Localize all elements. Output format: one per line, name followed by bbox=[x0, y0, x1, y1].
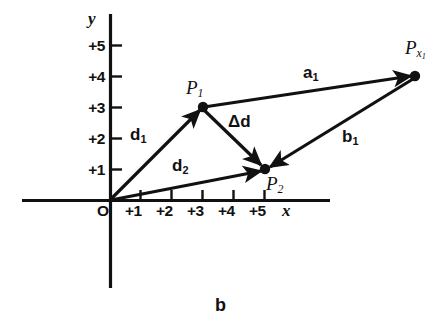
point-marker-p1 bbox=[198, 102, 208, 112]
y-tick-label-2: +2 bbox=[57, 131, 105, 147]
vector-label-d2-base: d bbox=[172, 156, 182, 175]
vector-label-a1: a1 bbox=[303, 64, 319, 83]
vector-label-b1: b1 bbox=[342, 128, 358, 147]
vector-label-d2-sub: 2 bbox=[182, 164, 188, 176]
vector-label-d1-sub: 1 bbox=[140, 133, 146, 145]
y-tick-label-1: +1 bbox=[57, 162, 105, 178]
vector-label-d1-base: d bbox=[130, 125, 140, 144]
axis-lines bbox=[22, 14, 330, 288]
point-label-p2: P2 bbox=[266, 174, 284, 196]
x-tick-label-3: +3 bbox=[187, 203, 204, 219]
point-label-p1: P1 bbox=[186, 78, 204, 100]
y-tick-label-5: +5 bbox=[57, 38, 105, 54]
figure-caption: b bbox=[215, 295, 226, 316]
vector-label-b1-sub: 1 bbox=[352, 135, 358, 147]
point-label-px1-sub2: 1 bbox=[422, 52, 426, 61]
vector-arrows bbox=[111, 76, 413, 200]
y-tick-label-3: +3 bbox=[57, 100, 105, 116]
vector-label-b1-base: b bbox=[342, 127, 352, 146]
x-axis-label: x bbox=[282, 202, 291, 219]
point-label-px1-sub: x1 bbox=[417, 47, 426, 60]
vector-b1-arrow bbox=[270, 79, 413, 167]
y-axis-label: y bbox=[88, 10, 96, 27]
vector-label-a1-sub: 1 bbox=[312, 71, 318, 83]
x-tick-label-4: +4 bbox=[218, 203, 235, 219]
x-tick-label-2: +2 bbox=[156, 203, 173, 219]
point-label-p2-sub: 2 bbox=[278, 183, 284, 196]
x-tick-label-1: +1 bbox=[125, 203, 142, 219]
point-label-p1-sub: 1 bbox=[198, 87, 204, 100]
point-marker-px1 bbox=[410, 71, 420, 81]
y-tick-label-4: +4 bbox=[57, 69, 105, 85]
point-label-p1-base: P bbox=[186, 77, 198, 98]
x-tick-label-5: +5 bbox=[249, 203, 266, 219]
vector-diagram-figure: y +5 +4 +3 +2 +1 O +1 +2 +3 +4 +5 x P1 P… bbox=[0, 0, 443, 331]
vector-label-d2: d2 bbox=[172, 157, 188, 176]
origin-label: O bbox=[97, 203, 109, 219]
point-label-px1: Px1 bbox=[405, 38, 426, 62]
vector-label-d1: d1 bbox=[130, 126, 146, 145]
point-label-px1-base: P bbox=[405, 37, 417, 58]
vector-label-delta-d: Δd bbox=[228, 113, 251, 130]
point-label-p2-base: P bbox=[266, 173, 278, 194]
